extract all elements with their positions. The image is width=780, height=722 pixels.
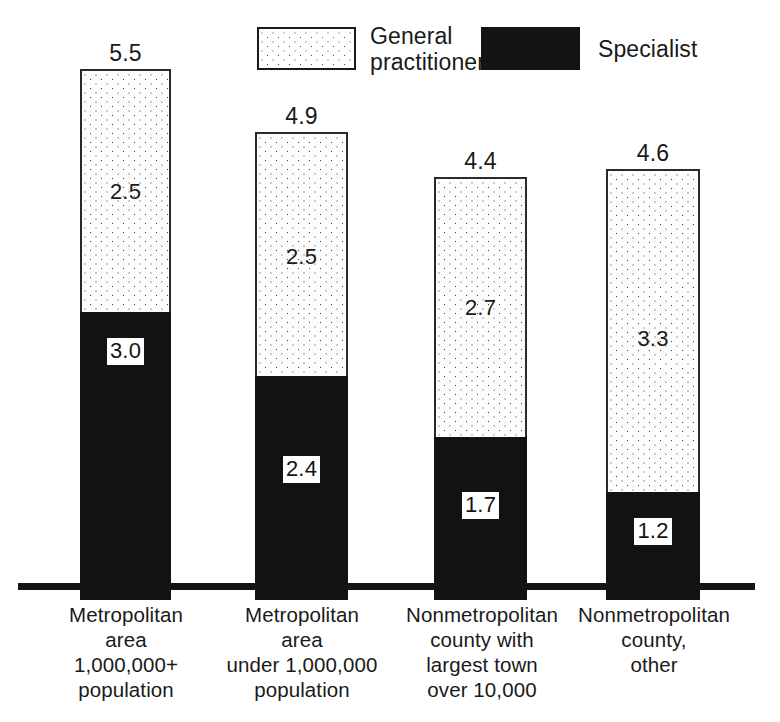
bar-group-metro-1m-plus: 5.5 2.5 3.0 xyxy=(80,69,171,600)
bar-segment-general-practitioner-2: 2.5 xyxy=(255,132,348,379)
bar-value-general-practitioner-3: 2.7 xyxy=(436,295,525,321)
bar-total-label-2: 4.9 xyxy=(255,103,348,130)
x-axis-baseline xyxy=(18,583,755,590)
bar-value-specialist-4: 1.2 xyxy=(634,518,671,545)
bar-total-label-4: 4.6 xyxy=(606,140,700,167)
x-axis-category-labels: Metropolitan area 1,000,000+ population … xyxy=(0,596,780,722)
bar-total-label-3: 4.4 xyxy=(434,148,527,175)
x-axis-label-nonmetro-other: Nonmetropolitan county, other xyxy=(562,602,746,677)
bar-value-general-practitioner-4: 3.3 xyxy=(608,326,698,352)
bar-group-nonmetro-other: 4.6 3.3 1.2 xyxy=(606,169,700,600)
bar-segment-general-practitioner-3: 2.7 xyxy=(434,177,527,439)
x-axis-label-metro-1m-plus: Metropolitan area 1,000,000+ population xyxy=(37,602,215,702)
bar-group-metro-under-1m: 4.9 2.5 2.4 xyxy=(255,132,348,600)
x-axis-label-nonmetro-large-town: Nonmetropolitan county with largest town… xyxy=(390,602,574,702)
bar-segment-specialist-2: 2.4 xyxy=(255,376,348,600)
bar-value-specialist-2: 2.4 xyxy=(283,456,320,483)
bar-value-specialist-3: 1.7 xyxy=(462,492,499,519)
plot-area: 5.5 2.5 3.0 4.9 2.5 2.4 4.4 xyxy=(0,0,780,600)
bar-value-general-practitioner-1: 2.5 xyxy=(82,179,169,205)
bar-total-label-1: 5.5 xyxy=(80,40,171,67)
bar-segment-specialist-1: 3.0 xyxy=(80,312,171,600)
bar-value-specialist-1: 3.0 xyxy=(107,338,144,365)
bar-segment-general-practitioner-4: 3.3 xyxy=(606,169,700,494)
bar-group-nonmetro-large-town: 4.4 2.7 1.7 xyxy=(434,177,527,600)
bar-value-general-practitioner-2: 2.5 xyxy=(257,244,346,270)
stacked-bar-chart: General practitioner Specialist 5.5 2.5 … xyxy=(0,0,780,722)
bar-segment-specialist-3: 1.7 xyxy=(434,437,527,600)
bar-segment-general-practitioner-1: 2.5 xyxy=(80,69,171,314)
x-axis-label-metro-under-1m: Metropolitan area under 1,000,000 popula… xyxy=(212,602,392,702)
